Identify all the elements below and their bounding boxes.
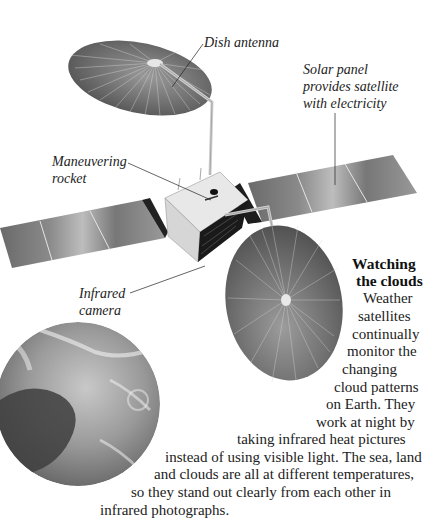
article-line: changing [342,361,397,379]
solar-panel-right [230,155,417,224]
maneuvering-rocket-label-line-2: rocket [52,170,86,187]
solar-panel-left [0,198,168,268]
solar-panel-label-line-1: Solar panel [303,61,368,78]
article-line: continually [352,326,420,344]
article-line: satellites [358,308,411,326]
article-line: infrared photographs. [100,502,229,520]
infrared-camera-label-line-1: Infrared [79,285,125,302]
earth-image [0,322,160,486]
article-line: on Earth. They [326,396,415,414]
article-line: so they stand out clearly from each othe… [131,484,391,502]
dish-antenna-lower [213,207,354,390]
article-line: and clouds are all at different temperat… [154,466,414,484]
article-heading-line-2: the clouds [356,272,423,290]
article-line: monitor the [347,343,417,361]
solar-panel-label-line-2: provides satellite [303,78,399,95]
article-line: work at night by [316,414,415,432]
article-line: cloud patterns [334,379,419,397]
solar-panel-label-line-3: with electricity [303,95,387,112]
article-heading-line-1: Watching [352,255,416,273]
dish-antenna-label: Dish antenna [204,34,279,51]
maneuvering-rocket-label-line-1: Maneuvering [52,153,127,170]
article-line: taking infrared heat pictures [237,431,406,449]
article-line: instead of using visible light. The sea,… [165,449,422,467]
satellite-body [165,168,248,262]
infrared-camera-label-line-2: camera [79,302,121,319]
article-line: Weather [363,290,413,308]
